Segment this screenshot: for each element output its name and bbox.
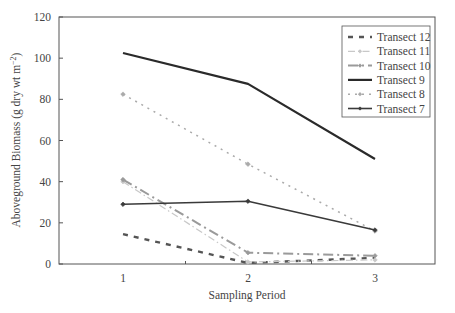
line-chart: 020406080100120 123 Aboveground Biomass … [0,0,455,313]
y-tick-label: 0 [45,258,51,270]
x-tick-label: 1 [120,272,126,284]
y-tick-label: 60 [40,135,52,147]
series-layer [121,53,378,264]
legend-label: Transect 9 [377,74,425,86]
y-tick-label: 20 [40,217,52,229]
legend-label: Transect 11 [377,45,430,57]
y-axis-title: Aboveground Biomass (g dry wt m−2) [9,52,23,227]
y-tick-label: 40 [40,176,52,188]
series-transect-7 [121,199,378,232]
legend: Transect 12Transect 11Transect 10Transec… [342,26,431,117]
x-tick-label: 3 [372,272,378,284]
legend-label: Transect 7 [377,103,425,115]
series-transect-10 [121,177,378,258]
y-tick-label: 100 [34,52,52,64]
y-tick-label: 120 [34,11,52,23]
series-transect-12 [123,234,375,263]
legend-label: Transect 8 [377,88,425,100]
y-tick-label: 80 [40,93,52,105]
x-axis-title: Sampling Period [209,289,286,302]
legend-label: Transect 10 [377,60,431,72]
data-point-marker [121,92,126,97]
legend-label: Transect 12 [377,31,431,43]
data-point-marker [121,202,126,207]
data-point-marker [246,199,251,204]
series-transect-8 [121,92,378,233]
series-transect-9 [123,53,375,159]
x-tick-label: 2 [245,272,251,284]
